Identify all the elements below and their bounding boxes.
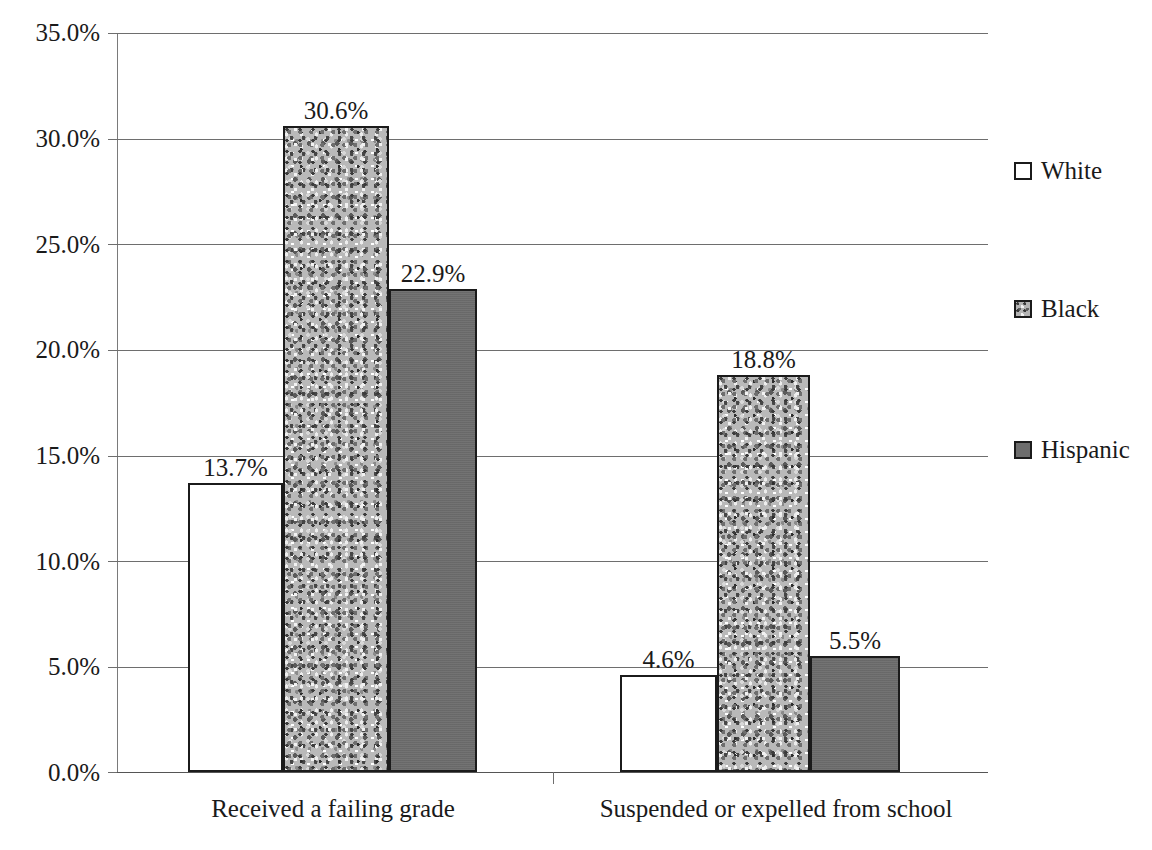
bar-black-received-a-failing-grade[interactable] bbox=[283, 126, 389, 772]
category-label-suspended-or-expelled-from-school: Suspended or expelled from school bbox=[566, 795, 986, 823]
y-tick-label-35: 35.0% bbox=[0, 20, 100, 45]
y-tick-mark-20 bbox=[108, 350, 117, 351]
y-tick-mark-30 bbox=[108, 139, 117, 140]
y-tick-label-5: 5.0% bbox=[0, 654, 100, 679]
data-label-hispanic-group1: 22.9% bbox=[389, 261, 477, 286]
bar-black-suspended-or-expelled-from-school[interactable] bbox=[717, 375, 810, 772]
bar-white-suspended-or-expelled-from-school[interactable] bbox=[620, 675, 717, 772]
y-tick-mark-5 bbox=[108, 667, 117, 668]
legend-label-black: Black bbox=[1041, 296, 1099, 321]
data-label-black-group2: 18.8% bbox=[717, 347, 810, 372]
legend-swatch-black-icon bbox=[1014, 300, 1032, 318]
data-label-white-group2: 4.6% bbox=[620, 647, 717, 672]
gridline-30 bbox=[117, 139, 988, 140]
legend-label-hispanic: Hispanic bbox=[1041, 437, 1130, 462]
plot-area bbox=[117, 33, 988, 772]
gridline-35 bbox=[117, 33, 988, 34]
bar-chart: 35.0% 30.0% 25.0% 20.0% 15.0% 10.0% 5.0%… bbox=[0, 0, 1152, 850]
bar-white-received-a-failing-grade[interactable] bbox=[188, 483, 283, 772]
y-tick-mark-10 bbox=[108, 561, 117, 562]
y-tick-mark-25 bbox=[108, 244, 117, 245]
y-tick-label-30: 30.0% bbox=[0, 126, 100, 151]
category-axis-tick bbox=[553, 772, 554, 784]
legend-item-hispanic[interactable]: Hispanic bbox=[1014, 437, 1130, 462]
data-label-hispanic-group2: 5.5% bbox=[810, 628, 900, 653]
y-tick-label-25: 25.0% bbox=[0, 232, 100, 257]
y-tick-label-15: 15.0% bbox=[0, 443, 100, 468]
legend-label-white: White bbox=[1041, 158, 1102, 183]
y-tick-label-20: 20.0% bbox=[0, 337, 100, 362]
legend-swatch-hispanic-icon bbox=[1014, 441, 1032, 459]
bar-hispanic-received-a-failing-grade[interactable] bbox=[389, 289, 477, 772]
y-tick-mark-15 bbox=[108, 456, 117, 457]
data-label-black-group1: 30.6% bbox=[283, 98, 389, 123]
gridline-25 bbox=[117, 244, 988, 245]
legend-item-black[interactable]: Black bbox=[1014, 296, 1099, 321]
gridline-20 bbox=[117, 350, 988, 351]
legend-swatch-white-icon bbox=[1014, 162, 1032, 180]
y-tick-mark-0 bbox=[108, 772, 117, 773]
legend-item-white[interactable]: White bbox=[1014, 158, 1102, 183]
data-label-white-group1: 13.7% bbox=[188, 455, 283, 480]
y-tick-mark-35 bbox=[108, 33, 117, 34]
y-tick-label-0: 0.0% bbox=[0, 760, 100, 785]
bar-hispanic-suspended-or-expelled-from-school[interactable] bbox=[810, 656, 900, 772]
y-tick-label-10: 10.0% bbox=[0, 549, 100, 574]
category-label-received-a-failing-grade: Received a failing grade bbox=[188, 795, 478, 823]
